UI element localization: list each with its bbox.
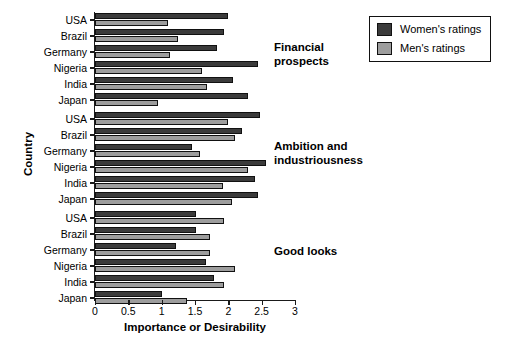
bar-mens-rating <box>95 135 235 141</box>
bar-womens-rating <box>95 259 206 265</box>
y-tick-label: Brazil <box>61 31 87 42</box>
bar-mens-rating <box>95 298 187 304</box>
bar-row: India <box>95 274 295 290</box>
legend-swatch-mens-ratings <box>377 42 392 55</box>
bar-row: Japan <box>95 191 295 207</box>
bar-row: Brazil <box>95 127 295 143</box>
y-tick-label: Brazil <box>61 229 87 240</box>
x-tick-label: 2 <box>225 306 231 317</box>
y-tick-label: Nigeria <box>54 261 87 272</box>
y-tick-label: USA <box>65 15 87 26</box>
group-annotation-1: Financial prospects <box>274 40 329 69</box>
y-tick-label: India <box>64 79 87 90</box>
bar-mens-rating <box>95 167 248 173</box>
y-tick-label: Germany <box>44 47 87 58</box>
bar-womens-rating <box>95 275 214 281</box>
y-axis-title: Country <box>22 114 34 194</box>
bar-row: India <box>95 175 295 191</box>
bar-row: Germany <box>95 44 295 60</box>
bar-row: India <box>95 76 295 92</box>
bar-row: Brazil <box>95 28 295 44</box>
y-tick-label: Japan <box>58 194 87 205</box>
y-tick-label: India <box>64 178 87 189</box>
bar-womens-rating <box>95 192 258 198</box>
y-tick-label: India <box>64 277 87 288</box>
y-tick-label: Germany <box>44 146 87 157</box>
bar-group-1: USABrazilGermanyNigeriaIndiaJapan <box>95 12 295 108</box>
bar-womens-rating <box>95 227 196 233</box>
legend-label-womens-ratings: Women's ratings <box>400 24 481 35</box>
bar-group-2: USABrazilGermanyNigeriaIndiaJapan <box>95 111 295 207</box>
bar-row: Japan <box>95 92 295 108</box>
bar-womens-rating <box>95 144 192 150</box>
x-axis-title: Importance or Desirability <box>95 321 295 333</box>
bar-womens-rating <box>95 93 248 99</box>
bar-womens-rating <box>95 211 196 217</box>
y-tick-label: Japan <box>58 293 87 304</box>
bar-group-3: USABrazilGermanyNigeriaIndiaJapan <box>95 210 295 306</box>
bar-mens-rating <box>95 84 207 90</box>
bar-mens-rating <box>95 52 170 58</box>
bar-womens-rating <box>95 291 162 297</box>
legend-swatch-womens-ratings <box>377 23 392 36</box>
bar-womens-rating <box>95 13 228 19</box>
bar-mens-rating <box>95 68 202 74</box>
bar-womens-rating <box>95 176 255 182</box>
bar-mens-rating <box>95 218 224 224</box>
x-tick-label: 3 <box>292 306 298 317</box>
y-tick-label: Nigeria <box>54 162 87 173</box>
bar-womens-rating <box>95 77 233 83</box>
x-tick-label: 1 <box>159 306 165 317</box>
bar-mens-rating <box>95 151 200 157</box>
bar-row: Nigeria <box>95 258 295 274</box>
bar-womens-rating <box>95 128 242 134</box>
bar-row: Germany <box>95 242 295 258</box>
bar-womens-rating <box>95 61 258 67</box>
plot-area: USABrazilGermanyNigeriaIndiaJapanUSABraz… <box>95 12 295 300</box>
bar-mens-rating <box>95 100 158 106</box>
legend-item-mens-ratings: Men's ratings <box>377 42 481 55</box>
bar-mens-rating <box>95 234 210 240</box>
bar-womens-rating <box>95 45 217 51</box>
bar-row: Nigeria <box>95 159 295 175</box>
bar-womens-rating <box>95 29 224 35</box>
bar-mens-rating <box>95 250 210 256</box>
y-tick-label: Brazil <box>61 130 87 141</box>
bar-row: USA <box>95 210 295 226</box>
bar-mens-rating <box>95 199 232 205</box>
y-tick-label: Nigeria <box>54 63 87 74</box>
x-tick-label: 2.5 <box>254 306 269 317</box>
bar-row: Germany <box>95 143 295 159</box>
bar-mens-rating <box>95 282 224 288</box>
legend: Women's ratings Men's ratings <box>369 16 491 62</box>
group-annotation-3: Good looks <box>274 244 337 258</box>
legend-label-mens-ratings: Men's ratings <box>400 43 465 54</box>
group-annotation-2: Ambition and industriousness <box>274 139 363 168</box>
y-tick-label: USA <box>65 114 87 125</box>
bar-row: USA <box>95 12 295 28</box>
bar-mens-rating <box>95 36 178 42</box>
bar-womens-rating <box>95 112 260 118</box>
bar-row: Brazil <box>95 226 295 242</box>
bar-mens-rating <box>95 266 235 272</box>
legend-item-womens-ratings: Women's ratings <box>377 23 481 36</box>
chart-figure: USABrazilGermanyNigeriaIndiaJapanUSABraz… <box>0 0 505 349</box>
x-tick-label: 0 <box>92 306 98 317</box>
bar-row: USA <box>95 111 295 127</box>
y-tick-label: Germany <box>44 245 87 256</box>
bar-mens-rating <box>95 183 223 189</box>
bar-womens-rating <box>95 243 176 249</box>
y-tick-label: USA <box>65 213 87 224</box>
x-tick-label: 1.5 <box>188 306 203 317</box>
x-tick-label: 0.5 <box>121 306 136 317</box>
bar-row: Nigeria <box>95 60 295 76</box>
bar-womens-rating <box>95 160 266 166</box>
y-tick-label: Japan <box>58 95 87 106</box>
bar-mens-rating <box>95 119 228 125</box>
bar-mens-rating <box>95 20 168 26</box>
